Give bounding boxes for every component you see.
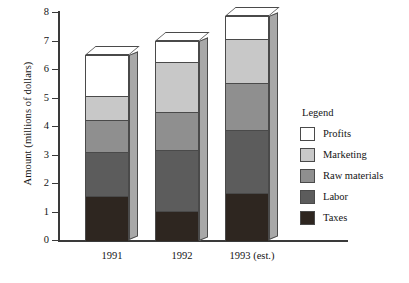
- bar-segment[interactable]: [156, 63, 198, 113]
- bar-segment[interactable]: [156, 212, 198, 241]
- y-axis-tick-label: 7: [32, 36, 49, 46]
- legend-item[interactable]: Taxes: [300, 207, 408, 228]
- legend-item-label: Labor: [323, 191, 348, 202]
- plot-area: 012345678 199119921993 (est.): [58, 12, 276, 240]
- y-axis-line: [58, 11, 60, 241]
- legend-title: Legend: [302, 107, 408, 118]
- bar-segment[interactable]: [226, 17, 268, 40]
- y-axis-tick-label: 4: [32, 121, 49, 131]
- bar-segment[interactable]: [86, 121, 128, 152]
- y-axis-tick: [52, 212, 58, 213]
- y-axis-tick: [52, 240, 58, 241]
- y-axis-tick: [52, 155, 58, 156]
- legend-item[interactable]: Labor: [300, 186, 408, 207]
- legend-item-label: Profits: [323, 128, 351, 139]
- legend-item[interactable]: Marketing: [300, 144, 408, 165]
- stacked-bar-chart: Amount (millions of dollars) 012345678 1…: [0, 0, 409, 283]
- legend-items: ProfitsMarketingRaw materialsLaborTaxes: [300, 123, 408, 228]
- legend-item[interactable]: Profits: [300, 123, 408, 144]
- y-axis-title: Amount (millions of dollars): [22, 29, 33, 219]
- bar-stack[interactable]: [225, 16, 269, 240]
- legend-item-label: Taxes: [323, 212, 347, 223]
- legend-swatch: [300, 190, 315, 204]
- bar-side-panel: [269, 13, 278, 240]
- legend-swatch: [300, 127, 315, 141]
- bar-segment[interactable]: [86, 153, 128, 197]
- legend: Legend ProfitsMarketingRaw materialsLabo…: [300, 107, 408, 228]
- bar-stack[interactable]: [85, 55, 129, 240]
- y-axis-tick: [52, 12, 58, 13]
- y-axis-tick-label: 2: [32, 178, 49, 188]
- bar-side-panel: [129, 51, 138, 240]
- y-axis-tick: [52, 183, 58, 184]
- bar-segment[interactable]: [156, 113, 198, 151]
- y-axis-tick-label: 6: [32, 64, 49, 74]
- bar-stack[interactable]: [155, 41, 199, 241]
- y-axis-tick-label: 8: [32, 7, 49, 17]
- bar-side-panel: [199, 37, 208, 240]
- bar-segment[interactable]: [226, 131, 268, 194]
- legend-item-label: Raw materials: [323, 170, 383, 181]
- bar-segment[interactable]: [156, 151, 198, 212]
- bar-segment[interactable]: [226, 194, 268, 241]
- y-axis-tick: [52, 69, 58, 70]
- bar-segment[interactable]: [226, 40, 268, 84]
- y-axis-tick: [52, 98, 58, 99]
- legend-item[interactable]: Raw materials: [300, 165, 408, 186]
- legend-swatch: [300, 169, 315, 183]
- bar-segment[interactable]: [86, 56, 128, 97]
- y-axis-tick: [52, 41, 58, 42]
- x-axis-tick-label: 1993 (est.): [207, 250, 297, 261]
- y-axis-tick-label: 0: [32, 235, 49, 245]
- legend-swatch: [300, 211, 315, 225]
- y-axis-tick-label: 3: [32, 150, 49, 160]
- bar-segment[interactable]: [86, 97, 128, 121]
- legend-swatch: [300, 148, 315, 162]
- y-axis-tick-label: 5: [32, 93, 49, 103]
- y-axis-tick-label: 1: [32, 207, 49, 217]
- bar-segment[interactable]: [156, 42, 198, 63]
- y-axis-tick: [52, 126, 58, 127]
- bar-segment[interactable]: [226, 84, 268, 131]
- legend-item-label: Marketing: [323, 149, 367, 160]
- bar-segment[interactable]: [86, 197, 128, 241]
